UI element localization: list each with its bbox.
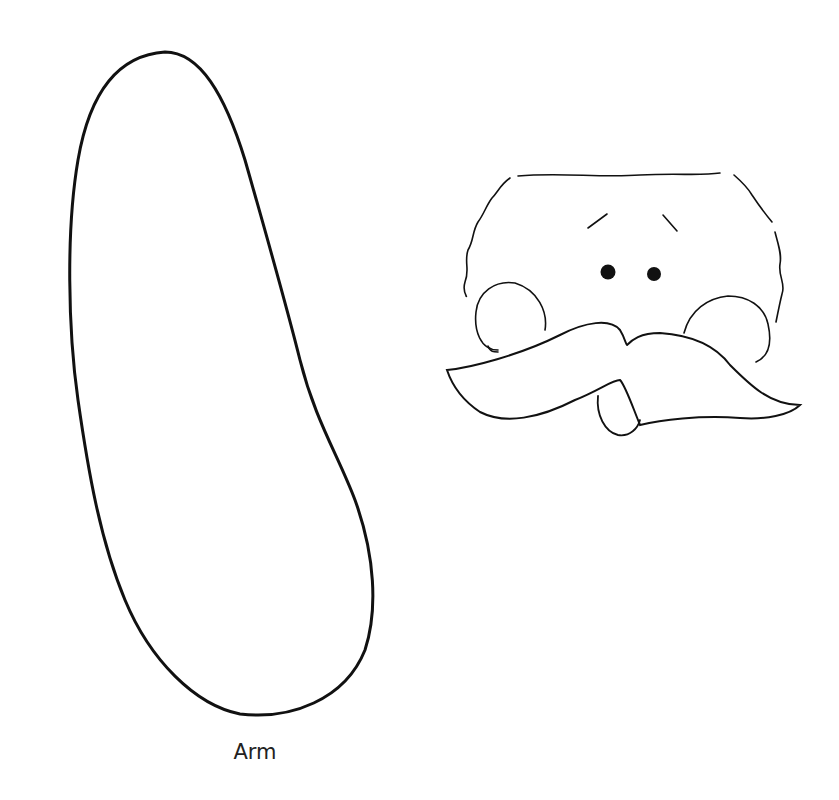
eyebrow-left — [588, 214, 607, 228]
cheek-right — [684, 296, 770, 362]
hair-top — [518, 173, 720, 176]
hair-right-lower — [775, 232, 783, 322]
eye-right — [647, 267, 661, 281]
face-drawing — [447, 173, 800, 435]
mustache — [447, 323, 800, 425]
arm-label: Arm — [210, 740, 300, 764]
mouth-tongue — [598, 396, 640, 435]
eye-left — [601, 265, 616, 280]
eyebrow-right — [663, 215, 677, 231]
hair-left — [464, 178, 510, 296]
hair-right — [734, 175, 772, 222]
cheek-left — [476, 283, 546, 350]
template-canvas — [0, 0, 839, 800]
arm-outline — [70, 52, 373, 715]
